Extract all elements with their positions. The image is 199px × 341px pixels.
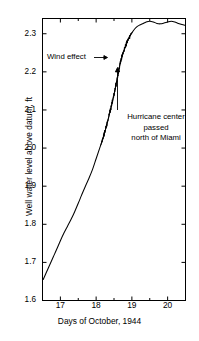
- hurricane-annotation-line-3: north of Miami: [111, 133, 199, 144]
- wind-effect-annotation: Wind effect: [47, 52, 86, 61]
- y-tick-label: 2.3: [0, 29, 38, 38]
- x-tick-label: 19: [120, 300, 144, 310]
- hurricane-center-annotation: Hurricane center passed north of Miami: [111, 112, 199, 144]
- x-tick-label: 18: [84, 300, 108, 310]
- x-axis-title: Days of October, 1944: [0, 316, 199, 326]
- x-tick-label: 20: [156, 300, 180, 310]
- y-axis-title: Well water level above datum, ft: [25, 52, 34, 262]
- hurricane-annotation-line-2: passed: [111, 123, 199, 134]
- x-tick-label: 17: [48, 300, 72, 310]
- wind-effect-arrow-head: [104, 56, 108, 60]
- chart-figure: 2.3 2.2 2.1 2.0 1.9 1.8 1.7 1.6 17 18 19…: [0, 0, 199, 341]
- hurricane-annotation-line-1: Hurricane center: [111, 112, 199, 123]
- y-tick-label: 1.6: [0, 295, 38, 304]
